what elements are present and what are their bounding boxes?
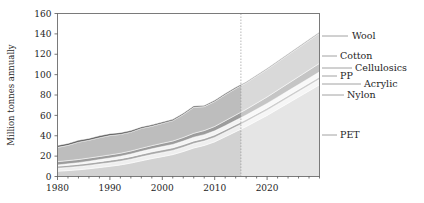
y-axis-label: Million tonnes annually <box>6 44 16 145</box>
y-axis-ticks: 020406080100120140160 <box>34 9 57 182</box>
y-tick-label: 160 <box>34 9 51 19</box>
x-tick-label: 2020 <box>256 183 279 193</box>
x-axis-ticks: 19801990200020102020 <box>46 177 319 193</box>
y-tick-label: 120 <box>34 49 51 59</box>
y-tick-label: 40 <box>40 131 52 141</box>
legend-label-cellulosics: Cellulosics <box>355 62 407 73</box>
forecast-shading <box>241 14 320 177</box>
y-tick-label: 0 <box>46 172 52 182</box>
y-tick-label: 80 <box>40 90 52 100</box>
y-tick-label: 20 <box>40 151 52 161</box>
legend-label-acrylic: Acrylic <box>363 78 398 89</box>
legend-label-nylon: Nylon <box>347 89 376 100</box>
forecast-overlay <box>241 14 320 177</box>
legend-label-cotton: Cotton <box>340 50 372 61</box>
x-tick-label: 2010 <box>203 183 226 193</box>
legend-label-pet: PET <box>340 129 360 140</box>
legend-group: WoolCottonCellulosicsPPAcrylicNylonPET <box>322 30 407 140</box>
legend-label-pp: PP <box>340 70 353 81</box>
x-tick-label: 1980 <box>46 183 69 193</box>
chart-figure: 020406080100120140160 198019902000201020… <box>0 0 424 203</box>
y-tick-label: 60 <box>40 111 52 121</box>
x-tick-label: 2000 <box>151 183 174 193</box>
x-tick-label: 1990 <box>98 183 121 193</box>
legend-label-wool: Wool <box>352 30 376 41</box>
y-axis-title: Million tonnes annually <box>6 44 16 145</box>
y-tick-label: 140 <box>34 29 51 39</box>
y-tick-label: 100 <box>34 70 51 80</box>
